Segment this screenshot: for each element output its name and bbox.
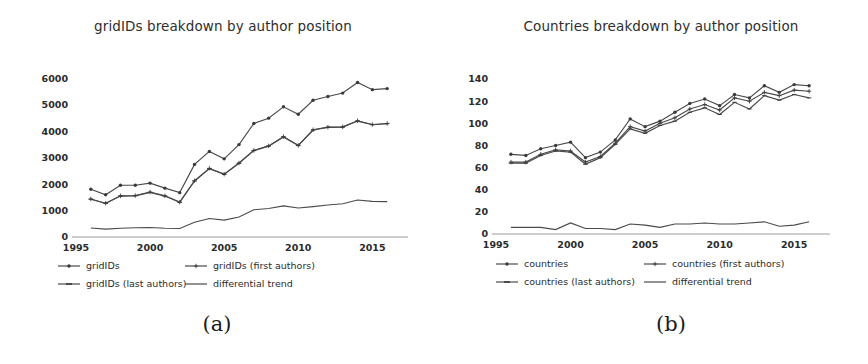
data-point-marker [371, 88, 374, 91]
x-tick-label: 1995 [483, 239, 509, 250]
legend-item[interactable]: gridIDs (last authors) [58, 278, 187, 289]
data-point-marker [584, 156, 587, 159]
x-tick-label: 1995 [63, 242, 89, 253]
data-point-marker [703, 102, 707, 106]
chart-plot-a: 0100020003000400050006000199520002005201… [0, 44, 434, 304]
y-tick-label: 2000 [42, 179, 69, 190]
legend-marker-plus [194, 264, 198, 268]
y-tick-label: 0 [481, 228, 488, 239]
data-point-marker [148, 181, 151, 184]
data-point-marker [252, 122, 255, 125]
chart-title-a: gridIDs breakdown by author position [0, 18, 440, 34]
series-line [511, 95, 809, 165]
data-point-marker [89, 188, 92, 191]
y-tick-label: 40 [475, 184, 489, 195]
data-point-marker [807, 89, 811, 93]
data-point-marker [703, 97, 706, 100]
data-point-marker [599, 150, 602, 153]
data-point-marker [628, 117, 631, 120]
chart-panel-a: gridIDs breakdown by author position 010… [0, 0, 434, 364]
x-tick-label: 2015 [359, 242, 385, 253]
legend-label: countries (first authors) [672, 258, 784, 269]
data-point-marker [792, 88, 796, 92]
y-tick-label: 1000 [42, 205, 69, 216]
legend-item[interactable]: countries (first authors) [644, 258, 784, 269]
y-tick-label: 6000 [42, 73, 69, 84]
data-point-marker [341, 91, 344, 94]
legend-item[interactable]: differential trend [644, 276, 752, 287]
y-tick-label: 60 [475, 162, 489, 173]
chart-panel-b: Countries breakdown by author position 0… [434, 0, 868, 364]
data-point-marker [178, 191, 181, 194]
data-point-marker [554, 144, 557, 147]
data-point-marker [509, 153, 512, 156]
series-line [91, 200, 387, 229]
data-point-marker [356, 81, 359, 84]
data-point-marker [539, 147, 542, 150]
legend-item[interactable]: gridIDs (first authors) [185, 260, 315, 271]
y-tick-label: 120 [468, 96, 488, 107]
data-point-marker [718, 104, 721, 107]
data-point-marker [311, 99, 314, 102]
y-tick-label: 100 [468, 118, 488, 129]
data-point-marker [134, 184, 137, 187]
legend-item[interactable]: countries (last authors) [496, 276, 635, 287]
data-point-marker [763, 84, 766, 87]
x-tick-label: 2010 [285, 242, 312, 253]
x-tick-label: 2010 [706, 239, 733, 250]
figure-container: gridIDs breakdown by author position 010… [0, 0, 868, 364]
data-point-marker [807, 84, 810, 87]
legend-label: countries (last authors) [524, 276, 635, 287]
subfigure-caption-a: (a) [0, 312, 434, 336]
data-point-marker [385, 87, 388, 90]
legend-marker-plus [653, 262, 657, 266]
data-point-marker [237, 143, 240, 146]
x-tick-label: 2000 [557, 239, 584, 250]
legend-item[interactable]: gridIDs [58, 260, 120, 271]
y-tick-label: 5000 [42, 99, 69, 110]
data-point-marker [569, 140, 572, 143]
y-tick-label: 4000 [42, 126, 69, 137]
x-tick-label: 2015 [781, 239, 807, 250]
data-point-marker [792, 83, 795, 86]
data-point-marker [297, 113, 300, 116]
data-point-marker [326, 95, 329, 98]
subfigure-caption-b: (b) [434, 312, 868, 336]
data-point-marker [222, 157, 225, 160]
series-line [91, 83, 387, 195]
data-point-marker [267, 116, 270, 119]
chart-title-b: Countries breakdown by author position [434, 18, 868, 34]
data-point-marker [193, 163, 196, 166]
chart-plot-b: 02040608010012014019952000200520102015co… [434, 44, 868, 304]
legend-label: gridIDs (last authors) [86, 278, 187, 289]
x-tick-label: 2005 [632, 239, 658, 250]
legend-item[interactable]: differential trend [185, 278, 293, 289]
x-tick-label: 2000 [137, 242, 164, 253]
legend-label: countries [524, 258, 568, 269]
data-point-marker [777, 93, 781, 97]
series-line [511, 222, 809, 230]
y-tick-label: 3000 [42, 152, 69, 163]
data-point-marker [524, 154, 527, 157]
y-tick-label: 80 [475, 140, 489, 151]
legend-label: gridIDs (first authors) [213, 260, 315, 271]
data-point-marker [208, 150, 211, 153]
data-point-marker [688, 102, 691, 105]
legend-item[interactable]: countries [496, 258, 568, 269]
data-point-marker [119, 184, 122, 187]
data-point-marker [673, 111, 676, 114]
y-tick-label: 20 [475, 206, 489, 217]
data-point-marker [282, 105, 285, 108]
data-point-marker [643, 125, 646, 128]
legend-marker-dot [505, 262, 508, 265]
y-tick-label: 0 [61, 231, 68, 242]
legend-marker-dot [67, 264, 70, 267]
y-tick-label: 140 [468, 73, 488, 84]
data-point-marker [163, 186, 166, 189]
legend-label: differential trend [213, 278, 293, 289]
data-point-marker [104, 193, 107, 196]
legend-label: gridIDs [86, 260, 120, 271]
x-tick-label: 2005 [211, 242, 237, 253]
legend-label: differential trend [672, 276, 752, 287]
